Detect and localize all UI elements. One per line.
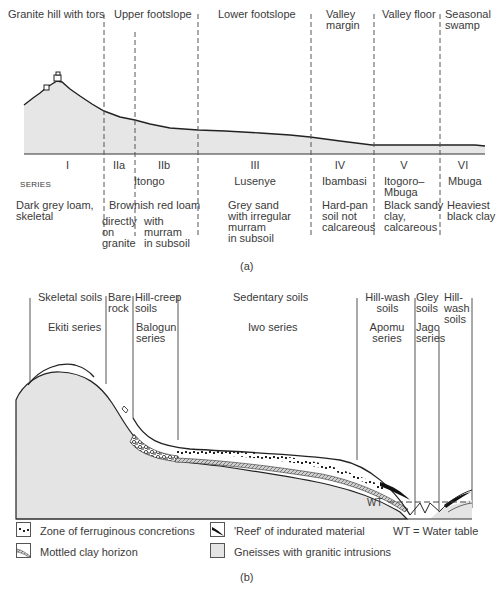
legend-reef: 'Reef' of indurated material (234, 526, 365, 537)
group-bare-rock: Bare rock (108, 292, 131, 314)
series-apomu: Apomu series (362, 322, 412, 344)
group-gley-soils: Gley soils (416, 292, 439, 314)
concretions-icon (16, 522, 31, 537)
group-sedentary-soils: Sedentary soils (233, 292, 308, 303)
reef-icon (210, 522, 225, 537)
series-balogun: Balogun series (136, 322, 176, 344)
legend-water-table: WT = Water table (393, 526, 478, 537)
series-jago: Jago series (416, 322, 445, 344)
series-iwo: Iwo series (248, 322, 298, 333)
group-hill-wash-soils-2: Hill- wash soils (444, 292, 470, 325)
legend-gneiss: Gneisses with granitic intrusions (234, 547, 391, 558)
mottled-clay-icon (16, 543, 31, 558)
caption-b: (b) (240, 572, 253, 583)
series-ekiti: Ekiti series (48, 322, 101, 333)
wt-label: WT (367, 497, 383, 508)
legend-concretions: Zone of ferruginous concretions (40, 526, 195, 537)
gneiss-bedrock (16, 372, 407, 519)
gneiss-icon (210, 543, 225, 558)
group-skeletal-soils: Skeletal soils (38, 292, 102, 303)
legend-mottled-clay: Mottled clay horizon (40, 547, 138, 558)
group-hill-wash-soils: Hill-wash soils (360, 292, 415, 314)
group-hill-creep-soils: Hill-creep soils (135, 292, 181, 314)
